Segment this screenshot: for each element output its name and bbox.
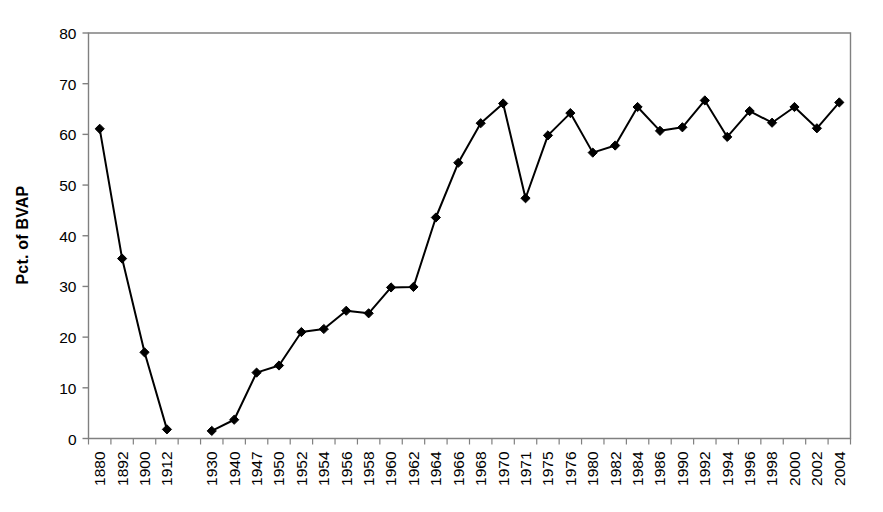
svg-text:1996: 1996 xyxy=(741,452,758,486)
svg-text:1880: 1880 xyxy=(91,451,108,486)
line-chart: Pct. of BVAP 01020304050607080 188018921… xyxy=(0,0,883,512)
y-axis-ticks xyxy=(83,33,89,439)
svg-text:1947: 1947 xyxy=(248,452,265,486)
svg-text:1952: 1952 xyxy=(293,452,310,486)
svg-text:1975: 1975 xyxy=(539,452,556,486)
svg-text:1912: 1912 xyxy=(158,452,175,486)
svg-text:2000: 2000 xyxy=(786,451,803,486)
svg-text:1950: 1950 xyxy=(270,451,287,486)
svg-text:60: 60 xyxy=(59,126,77,143)
svg-text:2002: 2002 xyxy=(808,452,825,486)
svg-text:1986: 1986 xyxy=(651,452,668,486)
data-series-markers xyxy=(95,96,844,436)
svg-text:1968: 1968 xyxy=(472,452,489,486)
svg-text:1994: 1994 xyxy=(719,451,736,486)
svg-text:0: 0 xyxy=(68,431,77,448)
svg-text:70: 70 xyxy=(59,76,77,93)
data-series-line xyxy=(100,100,840,430)
svg-text:1960: 1960 xyxy=(382,451,399,486)
svg-text:1980: 1980 xyxy=(584,451,601,486)
svg-text:1992: 1992 xyxy=(696,452,713,486)
svg-text:20: 20 xyxy=(59,329,77,346)
svg-text:1900: 1900 xyxy=(136,451,153,486)
svg-text:1984: 1984 xyxy=(629,451,646,486)
svg-text:1954: 1954 xyxy=(315,451,332,486)
svg-text:1930: 1930 xyxy=(203,451,220,486)
svg-text:10: 10 xyxy=(59,380,77,397)
chart-canvas: 01020304050607080 1880189219001912193019… xyxy=(0,0,883,512)
svg-text:80: 80 xyxy=(59,25,77,42)
svg-text:30: 30 xyxy=(59,278,77,295)
svg-text:1940: 1940 xyxy=(226,451,243,486)
svg-text:2004: 2004 xyxy=(831,451,848,486)
svg-text:1962: 1962 xyxy=(405,452,422,486)
x-axis-tick-labels: 1880189219001912193019401947195019521954… xyxy=(91,451,848,486)
y-axis-tick-labels: 01020304050607080 xyxy=(59,25,77,448)
svg-text:40: 40 xyxy=(59,228,77,245)
x-axis-ticks xyxy=(89,439,851,445)
svg-text:50: 50 xyxy=(59,177,77,194)
svg-text:1964: 1964 xyxy=(427,451,444,486)
svg-text:1982: 1982 xyxy=(607,452,624,486)
svg-text:1998: 1998 xyxy=(763,452,780,486)
svg-text:1976: 1976 xyxy=(562,452,579,486)
svg-text:1990: 1990 xyxy=(674,451,691,486)
svg-text:1958: 1958 xyxy=(360,452,377,486)
svg-text:1956: 1956 xyxy=(338,452,355,486)
svg-text:1892: 1892 xyxy=(114,452,131,486)
svg-text:1971: 1971 xyxy=(517,452,534,486)
svg-text:1966: 1966 xyxy=(450,452,467,486)
svg-text:1970: 1970 xyxy=(495,451,512,486)
plot-frame xyxy=(89,33,851,439)
